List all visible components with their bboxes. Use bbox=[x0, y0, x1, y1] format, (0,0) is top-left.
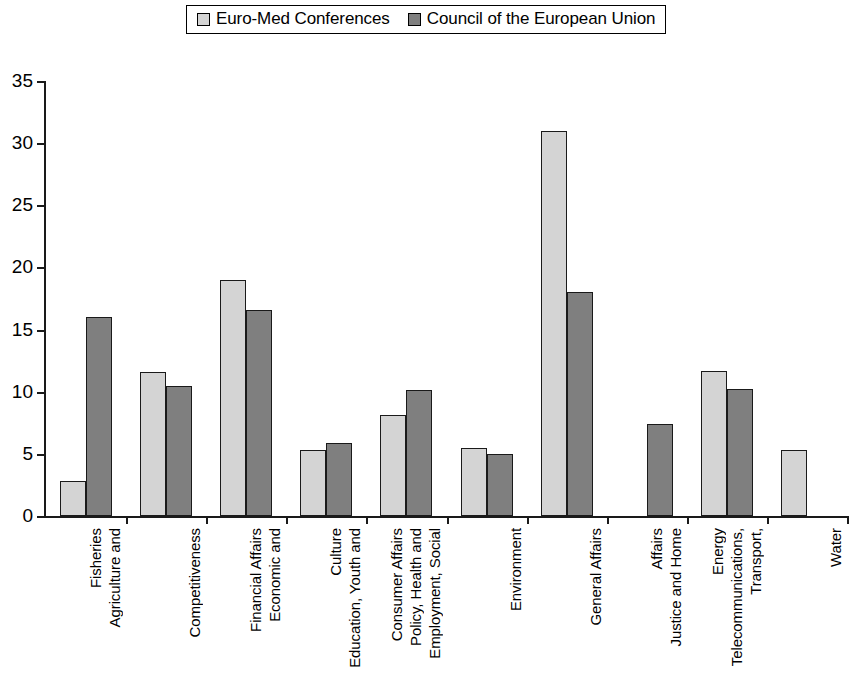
y-axis-tick bbox=[37, 205, 46, 207]
x-axis-tick bbox=[767, 516, 769, 524]
y-axis-tick-label: 15 bbox=[12, 320, 33, 339]
y-axis-tick bbox=[37, 267, 46, 269]
legend-entry-council: Council of the European Union bbox=[408, 10, 656, 28]
bar-euro-med bbox=[380, 415, 406, 516]
x-axis-tick bbox=[447, 516, 449, 524]
x-axis-tick bbox=[286, 516, 288, 524]
x-axis-category-label-line: Fisheries bbox=[86, 528, 105, 588]
bar-euro-med bbox=[60, 481, 86, 516]
x-axis-category-label-line: Policy, Health and bbox=[406, 528, 425, 646]
x-axis-tick bbox=[847, 516, 849, 524]
bar-euro-med bbox=[781, 450, 807, 516]
x-axis-category-label-line: Environment bbox=[506, 528, 525, 611]
bar-group bbox=[767, 81, 847, 516]
legend-label-council: Council of the European Union bbox=[427, 10, 656, 28]
x-axis-category-label-line: Culture bbox=[326, 528, 345, 576]
bar-council bbox=[727, 389, 753, 516]
x-axis-category-label-line: Affairs bbox=[647, 528, 666, 570]
y-axis-tick bbox=[37, 143, 46, 145]
bar-group bbox=[687, 81, 767, 516]
x-axis-category-label: Competitiveness bbox=[124, 528, 204, 699]
x-axis-category-labels: Agriculture andFisheriesCompetitivenessE… bbox=[44, 528, 845, 699]
x-axis-tick bbox=[366, 516, 368, 524]
y-axis-tick bbox=[37, 516, 46, 518]
bar-euro-med bbox=[220, 280, 246, 516]
x-axis-category-label-line: Agriculture and bbox=[105, 528, 124, 627]
y-axis-tick-label: 30 bbox=[12, 133, 33, 152]
bar-chart: Euro-Med Conferences Council of the Euro… bbox=[0, 0, 854, 699]
legend-label-euro-med: Euro-Med Conferences bbox=[216, 10, 390, 28]
x-axis-category-label-line: Education, Youth and bbox=[345, 528, 364, 668]
chart-legend: Euro-Med Conferences Council of the Euro… bbox=[186, 5, 666, 34]
legend-swatch-icon-council bbox=[408, 13, 421, 26]
bar-council bbox=[487, 454, 513, 516]
x-axis-category-label-line: Consumer Affairs bbox=[387, 528, 406, 641]
x-axis-category-label: Water bbox=[765, 528, 845, 699]
bar-group bbox=[527, 81, 607, 516]
bar-group bbox=[607, 81, 687, 516]
x-axis-category-label-line: Telecommunications, bbox=[727, 528, 746, 666]
y-axis-tick-label: 35 bbox=[12, 71, 33, 90]
x-axis-category-label-line: Justice and Home bbox=[666, 528, 685, 646]
y-axis-tick bbox=[37, 81, 46, 83]
x-axis-tick bbox=[206, 516, 208, 524]
bar-group bbox=[126, 81, 206, 516]
bar-group bbox=[447, 81, 527, 516]
y-axis-tick-label: 10 bbox=[12, 382, 33, 401]
x-axis-tick bbox=[687, 516, 689, 524]
bar-group bbox=[206, 81, 286, 516]
x-axis-category-label: Agriculture andFisheries bbox=[44, 528, 124, 699]
legend-swatch-icon-euro-med bbox=[197, 13, 210, 26]
x-axis-tick bbox=[607, 516, 609, 524]
x-axis-category-label-line: Competitiveness bbox=[185, 528, 204, 637]
x-axis-category-label: General Affairs bbox=[525, 528, 605, 699]
bar-council bbox=[567, 292, 593, 516]
y-axis-tick-label: 5 bbox=[22, 444, 33, 463]
bar-group bbox=[46, 81, 126, 516]
bar-euro-med bbox=[461, 448, 487, 516]
x-axis-category-label: Economic andFinancial Affairs bbox=[204, 528, 284, 699]
x-axis-category-label: Environment bbox=[445, 528, 525, 699]
y-axis-tick bbox=[37, 330, 46, 332]
x-axis-category-label-line: Economic and bbox=[265, 528, 284, 622]
x-axis-category-label: Justice and HomeAffairs bbox=[605, 528, 685, 699]
bar-council bbox=[86, 317, 112, 516]
x-axis-category-label: Transport,Telecommunications,Energy bbox=[685, 528, 765, 699]
plot-area: 05101520253035 bbox=[44, 81, 847, 518]
y-axis-tick-label: 0 bbox=[22, 506, 33, 525]
x-axis-tick bbox=[126, 516, 128, 524]
x-axis-category-label-line: Financial Affairs bbox=[246, 528, 265, 632]
bar-council bbox=[647, 424, 673, 516]
bar-euro-med bbox=[300, 450, 326, 516]
x-axis-tick bbox=[527, 516, 529, 524]
bar-group bbox=[286, 81, 366, 516]
x-axis-category-label-line: Employment, Social bbox=[425, 528, 444, 659]
x-axis-category-label: Education, Youth andCulture bbox=[284, 528, 364, 699]
x-axis-category-label: Employment, SocialPolicy, Health andCons… bbox=[364, 528, 444, 699]
bar-council bbox=[406, 390, 432, 516]
bar-euro-med bbox=[541, 131, 567, 516]
bar-council bbox=[246, 310, 272, 516]
y-axis-tick-label: 25 bbox=[12, 195, 33, 214]
x-axis-category-label-line: Water bbox=[826, 528, 845, 567]
x-axis-category-label-line: Energy bbox=[708, 528, 727, 575]
y-axis-tick-label: 20 bbox=[12, 258, 33, 277]
bar-euro-med bbox=[701, 371, 727, 516]
bar-group bbox=[366, 81, 446, 516]
legend-entry-euro-med: Euro-Med Conferences bbox=[197, 10, 390, 28]
bar-euro-med bbox=[140, 372, 166, 516]
bar-council bbox=[326, 443, 352, 516]
bar-council bbox=[166, 386, 192, 517]
y-axis-tick bbox=[37, 392, 46, 394]
y-axis-tick bbox=[37, 454, 46, 456]
x-axis-category-label-line: General Affairs bbox=[586, 528, 605, 625]
x-axis-category-label-line: Transport, bbox=[746, 528, 765, 595]
